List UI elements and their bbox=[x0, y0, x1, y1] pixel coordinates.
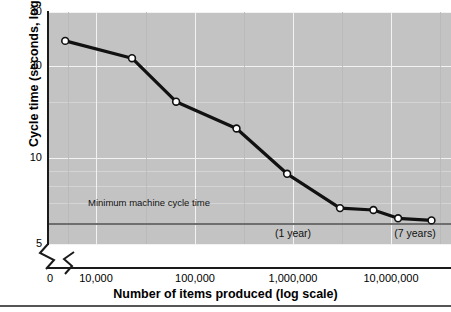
y-axis-title: Cycle time (seconds, log scale) bbox=[27, 0, 41, 147]
data-point bbox=[395, 215, 402, 222]
series-line bbox=[65, 41, 431, 221]
series-markers bbox=[62, 38, 435, 224]
x-axis-title: Number of items produced (log scale) bbox=[0, 287, 451, 301]
data-point bbox=[129, 55, 136, 62]
data-point bbox=[428, 217, 435, 224]
data-point bbox=[370, 207, 377, 214]
data-point bbox=[62, 38, 69, 45]
y-tick-label-10: 10 bbox=[12, 151, 42, 163]
data-point bbox=[233, 125, 240, 132]
data-point bbox=[337, 205, 344, 212]
x-tick-label-100000: 100,000 bbox=[175, 272, 215, 284]
x-axis-line bbox=[47, 267, 451, 269]
x-tick-label-1000000: 1,000,000 bbox=[269, 272, 318, 284]
figure-container: Minimum machine cycle time (1 year) (7 y… bbox=[0, 0, 451, 312]
data-point bbox=[173, 98, 180, 105]
x-tick-label-10000000: 10,000,000 bbox=[363, 272, 418, 284]
x-tick-label-0: 0 bbox=[47, 272, 53, 284]
bottom-rule bbox=[0, 305, 451, 307]
plot-panel: Minimum machine cycle time (1 year) (7 y… bbox=[48, 12, 451, 244]
y-tick-label-5: 5 bbox=[12, 237, 42, 249]
x-tick-label-10000: 10,000 bbox=[79, 272, 113, 284]
series-cycle-time bbox=[48, 12, 451, 244]
y-axis-line bbox=[47, 11, 49, 245]
gridline-y-5 bbox=[48, 244, 451, 245]
data-point bbox=[284, 170, 291, 177]
